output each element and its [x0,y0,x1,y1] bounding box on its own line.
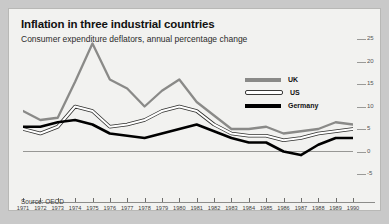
x-tick-label: 1986 [277,205,289,211]
y-tick [357,174,366,175]
x-axis-line [31,202,375,203]
y-tick-label: 15 [367,80,374,86]
legend-swatch-us [245,90,283,95]
x-tick-label: 1979 [156,205,168,211]
y-tick [357,62,366,63]
legend-label-germany: Germany [288,102,318,109]
x-tick [231,198,232,202]
page-title: Inflation in three industrial countries [21,18,215,30]
x-tick [249,198,250,202]
x-tick [127,198,128,202]
x-tick [353,198,354,202]
x-tick [266,198,267,202]
x-tick [214,198,215,202]
x-tick-label: 1983 [225,205,237,211]
x-tick-label: 1982 [208,205,220,211]
y-tick [357,39,366,40]
x-tick [318,198,319,202]
x-tick-label: 1984 [243,205,255,211]
legend-item-us: US [245,86,345,99]
source-note: Source: OECD [21,198,64,205]
x-tick [93,198,94,202]
x-tick [145,198,146,202]
x-tick-label: 1989 [329,205,341,211]
legend-label-us: US [290,89,300,96]
y-tick-label: 20 [367,58,374,64]
x-tick-label: 1972 [34,205,46,211]
x-tick [75,198,76,202]
y-tick [357,84,366,85]
x-tick [197,198,198,202]
x-tick-label: 1976 [104,205,116,211]
y-tick [357,152,366,153]
x-tick-label: 1975 [86,205,98,211]
x-tick-label: 1978 [138,205,150,211]
chart-legend: UK US Germany [245,73,345,112]
x-tick-label: 1987 [295,205,307,211]
y-tick [357,129,366,130]
x-tick-label: 1980 [173,205,185,211]
x-tick [162,198,163,202]
x-tick-label: 1977 [121,205,133,211]
y-tick [357,107,366,108]
legend-swatch-germany [245,104,281,108]
y-tick-label: -5 [367,170,372,176]
x-tick-label: 1971 [17,205,29,211]
legend-item-uk: UK [245,73,345,86]
legend-swatch-uk [245,78,281,82]
legend-item-germany: Germany [245,99,345,112]
x-tick [110,198,111,202]
chart-figure: Inflation in three industrial countries … [8,8,381,211]
y-tick-label: 0 [367,148,370,154]
legend-label-uk: UK [288,76,298,83]
x-tick [301,198,302,202]
y-tick-label: 25 [367,35,374,41]
x-tick-label: 1988 [312,205,324,211]
x-tick-label: 1973 [51,205,63,211]
x-tick [284,198,285,202]
x-tick-label: 1990 [347,205,359,211]
y-tick-label: 10 [367,103,374,109]
x-tick-label: 1981 [190,205,202,211]
x-tick [336,198,337,202]
x-tick-label: 1974 [69,205,81,211]
y-tick-label: 5 [367,125,370,131]
x-tick [179,198,180,202]
x-tick-label: 1985 [260,205,272,211]
